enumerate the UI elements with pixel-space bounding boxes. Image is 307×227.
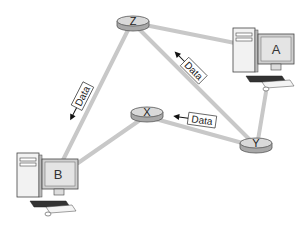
router-z: Z: [117, 15, 149, 31]
computer-a-label: A: [272, 42, 281, 57]
link-x-b: [78, 120, 140, 163]
computer-b-drive-1: [20, 158, 36, 161]
computer-a-drive-1: [236, 33, 252, 36]
computer-a-mouse: [263, 87, 269, 91]
computer-b: B: [17, 153, 78, 216]
link-y-a: [258, 92, 266, 140]
data-packet-z-b-arrowhead: [68, 113, 76, 121]
computer-a: A: [233, 28, 294, 91]
router-y-label: Y: [252, 137, 260, 149]
link-z-a: [140, 24, 240, 44]
network-diagram: Z X Y A B: [0, 0, 307, 227]
computer-a-stand: [271, 64, 281, 70]
router-x: X: [131, 106, 163, 122]
computer-b-drive-2: [20, 163, 36, 166]
data-packet-y-x-arrowhead: [173, 113, 180, 120]
computer-a-drive-2: [236, 38, 252, 41]
data-packet-z-b: Data: [65, 82, 94, 123]
link-z-b: [63, 30, 128, 160]
computer-b-tower-side: [39, 155, 42, 197]
router-y: Y: [240, 137, 272, 153]
computer-b-mouse: [45, 212, 51, 216]
computer-b-label: B: [54, 167, 63, 182]
router-x-label: X: [143, 106, 151, 118]
computer-b-stand: [54, 189, 64, 195]
computer-a-tower-side: [255, 30, 258, 72]
router-z-label: Z: [130, 15, 137, 27]
